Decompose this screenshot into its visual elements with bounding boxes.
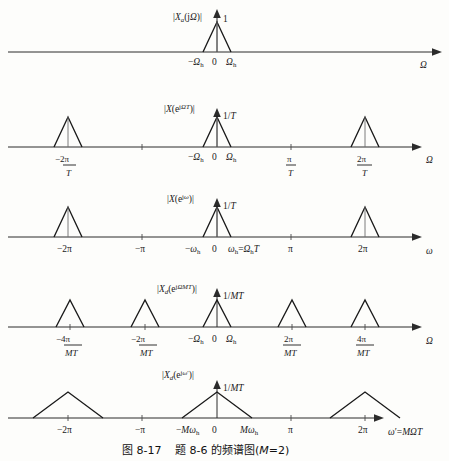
panel-decimated-omega-tick-zero: 0 [212,334,217,344]
svg-text:MT: MT [139,348,153,358]
svg-text:MT: MT [283,348,297,358]
panel-digital-tick-omega-h-equals: ωh=ΩhT [228,244,260,255]
panel-sampled-omega: |X(ejΩT)| 1/T −2π T −Ωh 0 Ωh π T 2π T Ω [8,103,433,178]
panel-sampled-tick-2pi-over-t: 2π T [357,154,372,178]
svg-text:T: T [66,168,72,178]
svg-text:−2π: −2π [131,334,146,344]
panel-sampled-tick-minus-omega-h: −Ωh [188,152,204,163]
panel-digital-tick-zero: 0 [212,244,217,254]
svg-text:−4π: −4π [56,334,71,344]
panel-decimated-digital-triangle-left [33,392,103,418]
panel-decimated-digital-triangle-right [330,392,400,418]
svg-text:π: π [287,154,292,164]
panel-decimated-digital: |Xd(ejω′)| 1/MT −2π −π −Mωh 0 Mωh π 2π ω… [8,369,423,437]
panel-sampled-axis-arrowhead [412,143,422,151]
panel-analog-vertical-arrowhead [213,9,221,18]
figure-caption-text: 图 8-17 题 8-6 的频谱图(M=2) [122,443,289,457]
panel-decimated-omega-tick-omega-h: Ωh [226,334,237,345]
panel-decimated-omega-triangle-1 [56,300,84,327]
svg-text:MT: MT [356,348,370,358]
panel-decimated-digital-xlabel: ω′=MΩT [388,427,423,437]
panel-analog-tick-zero: 0 [212,57,217,67]
panel-decimated-digital-tick-minus-pi: −π [135,425,145,435]
panel-decimated-omega-signal-label: |Xd(ejΩMT)| [157,283,197,295]
panel-analog-tick-omega-h: Ωh [226,57,237,68]
panel-digital-tick-minus-2pi: −2π [57,244,72,254]
panel-decimated-omega-tick-minus-omega-h: −Ωh [188,334,204,345]
panel-decimated-digital-tick-pi: π [288,425,293,435]
panel-decimated-omega: |Xd(ejΩMT)| 1/MT −4π MT −2π MT −Ωh 0 Ωh … [8,283,433,358]
panel-decimated-omega-axis-arrowhead [412,323,422,331]
panel-decimated-omega-vertical-arrowhead [213,288,221,297]
svg-text:4π: 4π [357,334,367,344]
panel-decimated-digital-signal-label: |Xd(ejω′)| [162,369,194,381]
figure-caption-number: 图 8-17 [122,444,161,457]
panel-decimated-digital-tick-zero: 0 [212,425,217,435]
panel-sampled-tick-minus-2pi-over-t: −2π T [55,154,76,178]
panel-sampled-tick-zero: 0 [212,152,217,162]
panel-decimated-digital-axis-arrowhead [374,414,384,422]
panel-sampled-tick-pi-over-t: π T [286,154,296,178]
panel-decimated-omega-tick-minus-2pi-over-mt: −2π MT [131,334,157,358]
panel-analog-signal-label: |Xa(jΩ)| [173,12,202,23]
panel-sampled-signal-label: |X(ejΩT)| [164,103,195,115]
panel-decimated-omega-tick-4pi-over-mt: 4π MT [356,334,374,358]
svg-text:2π: 2π [284,334,294,344]
panel-decimated-omega-amplitude-label: 1/MT [223,291,244,301]
frequency-spectra-figure: |Xa(jΩ)| 1 −Ωh 0 Ωh Ω |X(ejΩT)| 1/T −2π … [0,0,449,461]
svg-text:T: T [288,168,294,178]
panel-decimated-digital-tick-m-omega-h: Mωh [239,425,259,436]
panel-digital-axis-arrowhead [412,233,422,241]
panel-digital-signal-label: |X(ejω)| [167,193,194,205]
panel-digital: |X(ejω)| 1/T −2π −π −ωh 0 ωh=ΩhT π 2π ω [8,193,433,256]
panel-sampled-amplitude-label: 1/T [223,111,236,121]
panel-digital-tick-minus-omega-h: −ωh [185,244,201,255]
panel-digital-tick-minus-pi: −π [135,244,145,254]
figure-caption-title: 题 8-6 的频谱图 [175,443,255,457]
panel-decimated-omega-xlabel: Ω [426,336,433,346]
panel-decimated-digital-amplitude-label: 1/MT [223,383,244,393]
panel-decimated-omega-tick-2pi-over-mt: 2π MT [283,334,301,358]
panel-sampled-xlabel: Ω [426,155,433,165]
panel-decimated-digital-tick-minus-m-omega-h: −Mωh [176,425,200,436]
panel-decimated-omega-triangle-5 [351,300,379,327]
figure-caption: 图 8-17 题 8-6 的频谱图(M=2) [122,443,289,457]
svg-text:T: T [362,168,368,178]
panel-analog-tick-minus-omega-h: −Ωh [188,57,204,68]
panel-analog-xlabel: Ω [420,60,427,70]
panel-sampled-tick-omega-h: Ωh [226,152,237,163]
panel-decimated-omega-tick-minus-4pi-over-mt: −4π MT [56,334,82,358]
panel-digital-tick-2pi: 2π [358,244,368,254]
panel-decimated-digital-tick-2pi: 2π [358,425,368,435]
svg-text:−2π: −2π [55,154,70,164]
panel-decimated-digital-tick-minus-2pi: −2π [57,425,72,435]
panel-analog: |Xa(jΩ)| 1 −Ωh 0 Ωh Ω [8,9,442,70]
panel-analog-amplitude-label: 1 [223,14,228,24]
panel-digital-amplitude-label: 1/T [223,201,236,211]
panel-digital-xlabel: ω [426,246,433,256]
svg-text:2π: 2π [357,154,367,164]
svg-text:MT: MT [64,348,78,358]
panel-decimated-digital-vertical-arrowhead [213,380,221,389]
panel-analog-axis-arrowhead [432,48,442,56]
panel-digital-tick-pi: π [288,244,293,254]
panel-decimated-omega-triangle-4 [278,300,306,327]
panel-decimated-omega-triangle-2 [131,300,159,327]
